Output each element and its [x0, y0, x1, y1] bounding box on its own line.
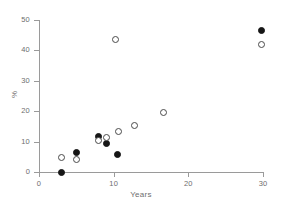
- data-point-filled: [103, 140, 110, 147]
- data-point-open: [258, 41, 265, 48]
- data-point-open: [112, 36, 119, 43]
- data-point-open: [95, 137, 102, 144]
- y-axis-title: %: [10, 75, 19, 115]
- data-point-open: [58, 154, 65, 161]
- data-point-filled: [73, 149, 80, 156]
- data-point-filled: [114, 151, 121, 158]
- data-point-open: [103, 134, 110, 141]
- x-axis-title: Years: [0, 190, 282, 199]
- data-point-open: [73, 156, 80, 163]
- data-point-filled: [258, 27, 265, 34]
- data-point-open: [131, 122, 138, 129]
- scatter-chart: 01020304050 0102030 % Years: [0, 0, 282, 203]
- data-point-open: [160, 109, 167, 116]
- data-point-filled: [58, 169, 65, 176]
- data-point-open: [115, 128, 122, 135]
- plot-area: [0, 0, 282, 203]
